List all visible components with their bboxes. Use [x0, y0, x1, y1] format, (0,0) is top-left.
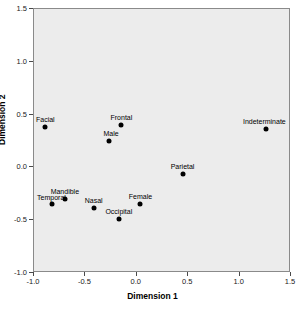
plot-area	[33, 8, 290, 272]
data-point-label: Indeterminate	[243, 118, 286, 125]
data-point	[138, 201, 143, 206]
x-axis-tick-label: 1.0	[233, 277, 243, 286]
x-axis-tick-label: 0.5	[182, 277, 192, 286]
x-axis-tick-label: -0.5	[78, 277, 91, 286]
data-point-label: Facial	[36, 116, 55, 123]
x-axis-tick	[136, 272, 137, 276]
x-axis-tick	[33, 272, 34, 276]
y-axis-tick-label: 1.5	[17, 4, 27, 13]
data-point	[107, 139, 112, 144]
y-axis-tick-label: 0.5	[17, 109, 27, 118]
x-axis-tick-label: 1.5	[285, 277, 295, 286]
y-axis-tick	[29, 61, 33, 62]
data-point-label: Nasal	[85, 197, 103, 204]
y-axis-tick-label: -0.5	[14, 215, 27, 224]
data-point	[43, 125, 48, 130]
data-point	[264, 126, 269, 131]
data-point	[180, 171, 185, 176]
data-point	[91, 205, 96, 210]
data-point-label: Male	[103, 130, 118, 137]
y-axis-tick	[29, 219, 33, 220]
data-point	[116, 217, 121, 222]
x-axis-title: Dimension 1	[0, 291, 305, 301]
x-axis-tick	[290, 272, 291, 276]
data-point	[119, 123, 124, 128]
y-axis-tick-label: -1.0	[14, 268, 27, 277]
y-axis-title: Dimension 2	[0, 94, 7, 145]
y-axis-tick	[29, 114, 33, 115]
y-axis-tick	[29, 8, 33, 9]
data-point	[49, 202, 54, 207]
x-axis-tick	[187, 272, 188, 276]
data-point-label: Temporal	[37, 194, 66, 201]
y-axis-tick	[29, 272, 33, 273]
x-axis-tick	[84, 272, 85, 276]
y-axis-tick-label: 0.0	[17, 162, 27, 171]
x-axis-tick-label: 0.0	[131, 277, 141, 286]
data-point-label: Female	[129, 193, 152, 200]
scatter-plot-figure: -1.0-0.50.00.51.01.5-1.0-0.50.00.51.01.5…	[0, 0, 305, 310]
data-point-label: Occipital	[105, 208, 132, 215]
x-axis-tick-label: -1.0	[27, 277, 40, 286]
x-axis-tick	[239, 272, 240, 276]
data-point-label: Parietal	[171, 163, 195, 170]
y-axis-tick	[29, 166, 33, 167]
y-axis-tick-label: 1.0	[17, 56, 27, 65]
data-point-label: Frontal	[111, 114, 133, 121]
